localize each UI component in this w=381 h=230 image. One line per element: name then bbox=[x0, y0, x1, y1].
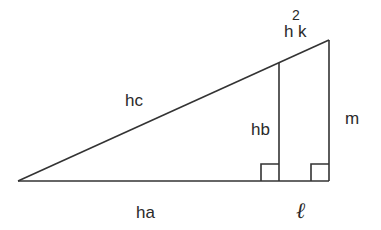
right-angle-marker-outer bbox=[311, 164, 329, 181]
label-ha: ha bbox=[136, 203, 155, 222]
hypotenuse-line bbox=[18, 40, 329, 181]
label-k: k bbox=[298, 22, 307, 41]
label-ell: ℓ bbox=[296, 198, 306, 223]
label-hb: hb bbox=[251, 120, 270, 139]
label-m: m bbox=[345, 109, 359, 128]
right-angle-marker-inner bbox=[261, 164, 279, 181]
label-h: h bbox=[284, 22, 293, 41]
triangle-diagram: hc ha hb m h 2 k ℓ bbox=[0, 0, 381, 230]
label-hc: hc bbox=[125, 91, 143, 110]
label-exponent: 2 bbox=[292, 7, 300, 23]
